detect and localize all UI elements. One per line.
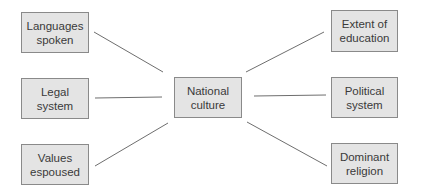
node-dominant-religion: Dominant religion [331,143,398,184]
connector-religion [247,122,327,166]
connector-education [246,32,324,72]
node-values-espoused: Values espoused [21,144,89,185]
connector-political [254,95,326,96]
node-label: Political system [345,84,385,112]
node-national-culture: National culture [174,77,242,118]
connector-legal [95,97,162,98]
node-legal-system: Legal system [21,78,89,119]
node-languages-spoken: Languages spoken [21,12,89,53]
node-label: Dominant religion [340,150,389,178]
connector-languages [94,32,163,72]
node-label: National culture [187,84,229,112]
connector-values [95,123,168,166]
node-label: Legal system [37,85,73,113]
node-label: Extent of education [340,17,390,45]
node-political-system: Political system [331,77,398,118]
node-extent-of-education: Extent of education [331,10,398,52]
node-label: Languages spoken [27,19,84,47]
node-label: Values espoused [30,151,80,179]
national-culture-diagram: Languages spoken Legal system Values esp… [0,0,422,196]
